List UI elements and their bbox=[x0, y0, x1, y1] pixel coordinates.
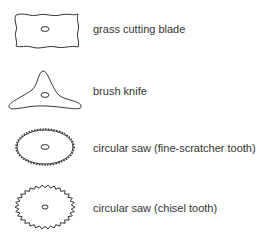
grass-cutting-blade-icon bbox=[15, 14, 79, 48]
label-chisel-tooth-saw: circular saw (chisel tooth) bbox=[93, 202, 217, 214]
label-fine-tooth-saw: circular saw (fine-scratcher tooth) bbox=[93, 142, 256, 154]
label-brush-knife: brush knife bbox=[93, 85, 147, 97]
brush-knife-icon bbox=[9, 71, 81, 109]
chisel-tooth-saw-icon bbox=[15, 185, 75, 229]
label-grass-cutting-blade: grass cutting blade bbox=[93, 23, 185, 35]
fine-tooth-saw-icon bbox=[16, 129, 74, 165]
